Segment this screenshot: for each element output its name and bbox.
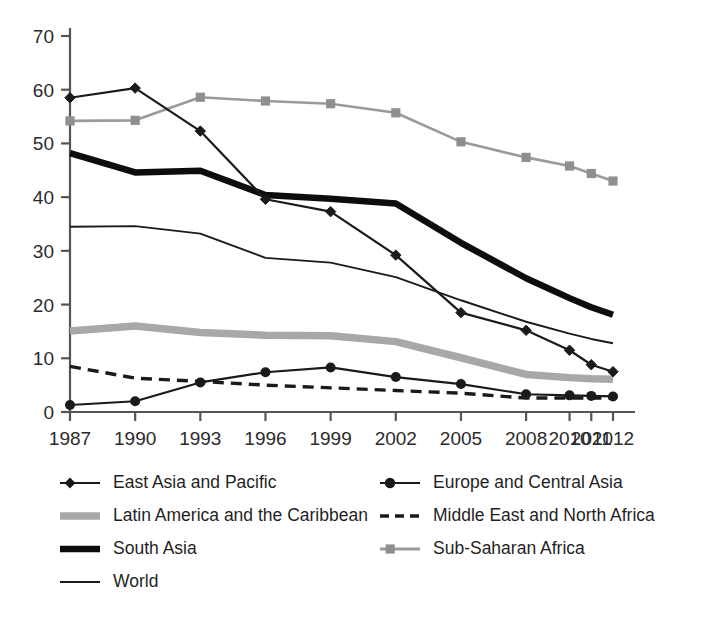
y-axis-tick-label: 50 (33, 133, 54, 154)
y-axis-tick-label: 0 (43, 402, 54, 423)
thick-black-line-icon (58, 540, 102, 558)
legend-item-label: East Asia and Pacific (113, 474, 276, 492)
y-axis-tick-label: 70 (33, 26, 54, 47)
y-axis-tick-label: 20 (33, 295, 54, 316)
diamond-marker-line-icon (58, 474, 102, 492)
thick-gray-line-icon (58, 507, 102, 525)
series-east-asia-and-pacific (65, 83, 618, 377)
x-axis-tick-label: 1996 (244, 428, 286, 449)
legend-item-sub-saharan-africa[interactable]: Sub-Saharan Africa (378, 532, 698, 565)
x-axis-tick-label: 2005 (440, 428, 482, 449)
y-axis-tick-label: 10 (33, 348, 54, 369)
x-axis-tick-label: 2002 (375, 428, 417, 449)
legend-item-label: Latin America and the Caribbean (113, 507, 368, 525)
legend-item-middle-east-and-north-africa[interactable]: Middle East and North Africa (378, 499, 698, 532)
x-axis-tick-label: 2008 (505, 428, 547, 449)
legend-item-south-asia[interactable]: South Asia (58, 532, 378, 565)
legend-item-east-asia-and-pacific[interactable]: East Asia and Pacific (58, 466, 378, 499)
legend-item-world[interactable]: World (58, 565, 378, 598)
x-axis-tick-label: 1999 (309, 428, 351, 449)
legend-item-label: Middle East and North Africa (433, 507, 655, 525)
y-axis-tick-label: 60 (33, 80, 54, 101)
legend-item-label: Europe and Central Asia (433, 474, 623, 492)
line-chart-plot: 010203040506070 198719901993199619992002… (0, 0, 724, 460)
circle-marker-line-icon (378, 474, 422, 492)
dashed-black-line-icon (378, 507, 422, 525)
legend-item-label: Sub-Saharan Africa (433, 540, 585, 558)
y-axis: 010203040506070 (33, 26, 70, 423)
thin-black-line-icon (58, 573, 102, 591)
legend-item-label: World (113, 573, 158, 591)
y-axis-tick-label: 40 (33, 187, 54, 208)
legend-item-europe-and-central-asia[interactable]: Europe and Central Asia (378, 466, 698, 499)
x-axis-tick-label: 2012 (592, 428, 634, 449)
y-axis-tick-label: 30 (33, 241, 54, 262)
legend-item-label: South Asia (113, 540, 197, 558)
x-axis-tick-label: 1993 (179, 428, 221, 449)
chart-container: 010203040506070 198719901993199619992002… (0, 0, 724, 617)
x-axis: 1987199019931996199920022005200820102011… (49, 412, 635, 449)
gray-square-marker-line-icon (378, 540, 422, 558)
x-axis-tick-label: 1987 (49, 428, 91, 449)
series-south-asia (70, 153, 613, 315)
x-axis-tick-label: 1990 (114, 428, 156, 449)
legend-item-latin-america-and-the-caribbean[interactable]: Latin America and the Caribbean (58, 499, 378, 532)
series-layer (65, 83, 618, 410)
chart-legend: East Asia and Pacific Europe and Central… (58, 466, 698, 598)
series-europe-and-central-asia (65, 362, 618, 410)
